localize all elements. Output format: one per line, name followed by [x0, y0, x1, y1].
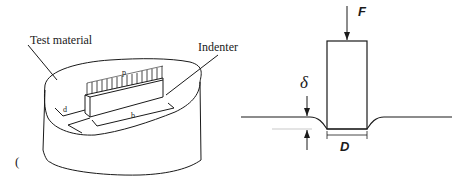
diameter-label: D — [340, 139, 350, 154]
material-right-side — [200, 82, 201, 160]
test-material-label: Test material — [30, 33, 93, 47]
punch — [327, 41, 367, 129]
material-bottom — [50, 160, 201, 175]
indentation-diagram: Test material Indenter p d b ( F δ D — [0, 0, 468, 187]
depth-arrowhead-bottom — [304, 130, 310, 138]
stray-mark: ( — [15, 154, 19, 169]
indenter-leader — [166, 55, 218, 95]
force-arrowhead — [344, 32, 350, 40]
surface-profile — [241, 117, 452, 129]
pressure-label: p — [122, 68, 126, 77]
diameter-dimension — [327, 131, 367, 139]
material-leader — [28, 45, 57, 80]
indenter-label: Indenter — [198, 40, 238, 54]
length-label: b — [131, 111, 135, 120]
width-label: d — [63, 105, 67, 114]
left-figure — [28, 45, 218, 175]
depth-arrowhead-top — [304, 108, 310, 116]
depth-label: δ — [300, 73, 309, 92]
force-label: F — [358, 4, 367, 19]
right-figure — [241, 6, 452, 150]
